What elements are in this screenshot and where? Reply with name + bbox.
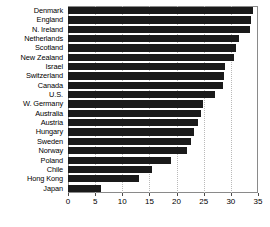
category-label: New Zealand	[0, 54, 66, 61]
bar-row	[68, 63, 258, 70]
category-label: Sweden	[0, 138, 66, 145]
bar-row	[68, 54, 258, 61]
x-tick	[149, 193, 150, 196]
x-tick-label: 10	[118, 197, 127, 206]
bar	[68, 82, 223, 89]
bar-chart-figure: Denmark England N. Ireland Netherlands S…	[0, 0, 270, 227]
bar	[68, 100, 203, 107]
bar	[68, 157, 171, 164]
category-label: N. Ireland	[0, 26, 66, 33]
bar-row	[68, 166, 258, 173]
category-label: Austria	[0, 119, 66, 126]
category-label: W. Germany	[0, 100, 66, 107]
category-label: Poland	[0, 157, 66, 164]
category-label: Netherlands	[0, 35, 66, 42]
bar	[68, 72, 224, 79]
bar	[68, 7, 253, 14]
x-tick	[177, 193, 178, 196]
category-label: Chile	[0, 166, 66, 173]
category-label: Norway	[0, 147, 66, 154]
bar	[68, 91, 215, 98]
category-label: Hong Kong	[0, 175, 66, 182]
x-tick	[231, 193, 232, 196]
bar-row	[68, 185, 258, 192]
bar	[68, 63, 225, 70]
bar-row	[68, 157, 258, 164]
bar-row	[68, 72, 258, 79]
bar	[68, 175, 139, 182]
x-tick-label: 20	[172, 197, 181, 206]
bar	[68, 54, 234, 61]
x-tick-label: 25	[199, 197, 208, 206]
category-label: England	[0, 16, 66, 23]
bar	[68, 185, 101, 192]
x-tick-label: 0	[66, 197, 70, 206]
bar-row	[68, 110, 258, 117]
bar-series	[68, 6, 258, 193]
category-label: Scotland	[0, 44, 66, 51]
plot-area	[68, 6, 258, 193]
category-label: Australia	[0, 110, 66, 117]
bar	[68, 166, 152, 173]
bar-row	[68, 35, 258, 42]
bar	[68, 128, 194, 135]
bar-row	[68, 119, 258, 126]
bar-row	[68, 128, 258, 135]
x-axis-tick-labels: 05101520253035	[68, 197, 258, 209]
bar	[68, 44, 236, 51]
category-axis-labels: Denmark England N. Ireland Netherlands S…	[0, 6, 66, 193]
x-tick-label: 5	[93, 197, 97, 206]
bar	[68, 26, 250, 33]
x-tick	[204, 193, 205, 196]
category-label: Japan	[0, 185, 66, 192]
x-tick	[258, 193, 259, 196]
category-label: Canada	[0, 82, 66, 89]
bar-row	[68, 26, 258, 33]
bar-row	[68, 147, 258, 154]
bar	[68, 110, 201, 117]
bar	[68, 35, 239, 42]
x-tick-label: 15	[145, 197, 154, 206]
x-tick	[95, 193, 96, 196]
category-label: Israel	[0, 63, 66, 70]
bar-row	[68, 44, 258, 51]
bar-row	[68, 138, 258, 145]
x-tick-label: 35	[254, 197, 263, 206]
bar-row	[68, 82, 258, 89]
bar	[68, 16, 251, 23]
bar-row	[68, 16, 258, 23]
category-label: Denmark	[0, 7, 66, 14]
x-tick	[122, 193, 123, 196]
x-tick-label: 30	[226, 197, 235, 206]
bar-row	[68, 100, 258, 107]
figure-caption	[6, 215, 268, 224]
bar-row	[68, 7, 258, 14]
bar-row	[68, 175, 258, 182]
bar	[68, 119, 198, 126]
bar-row	[68, 91, 258, 98]
category-label: Hungary	[0, 128, 66, 135]
category-label: U.S.	[0, 91, 66, 98]
bar	[68, 138, 191, 145]
category-label: Switzerland	[0, 72, 66, 79]
x-tick	[68, 193, 69, 196]
bar	[68, 147, 187, 154]
